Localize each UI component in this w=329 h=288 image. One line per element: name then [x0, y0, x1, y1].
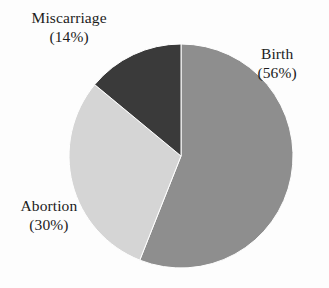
slice-label-birth-percent: (56%) [258, 63, 297, 82]
slice-label-miscarriage-name: Miscarriage [32, 8, 107, 27]
slice-label-miscarriage-percent: (14%) [32, 27, 107, 46]
pie-chart-figure: Miscarriage (14%) Birth (56%) Abortion (… [0, 0, 329, 288]
slice-label-abortion: Abortion (30%) [21, 196, 78, 234]
slice-label-abortion-name: Abortion [21, 196, 78, 215]
slice-label-birth: Birth (56%) [258, 44, 297, 82]
slice-label-miscarriage: Miscarriage (14%) [32, 8, 107, 46]
slice-label-birth-name: Birth [258, 44, 297, 63]
slice-label-abortion-percent: (30%) [21, 215, 78, 234]
